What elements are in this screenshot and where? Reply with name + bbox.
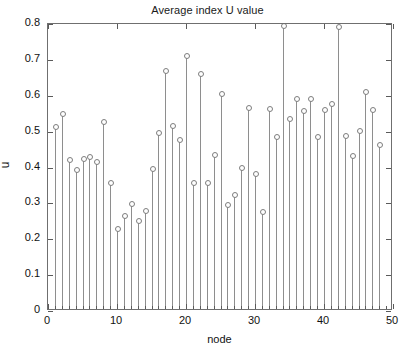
x-tick-minor xyxy=(76,306,77,309)
y-tick-right xyxy=(386,132,391,133)
x-tick-minor xyxy=(131,306,132,309)
x-tick-major xyxy=(324,304,325,309)
stem-marker xyxy=(232,192,238,198)
x-tick-minor xyxy=(103,306,104,309)
x-tick-minor xyxy=(158,306,159,309)
stem-line xyxy=(172,126,173,309)
stem-marker xyxy=(315,134,321,140)
x-tick-minor xyxy=(165,306,166,309)
stem-marker xyxy=(87,154,93,160)
x-tick-top xyxy=(117,24,118,29)
x-tick-minor xyxy=(62,306,63,309)
stem-line xyxy=(352,156,353,309)
stem-line xyxy=(158,133,159,309)
x-tick-minor xyxy=(96,306,97,309)
y-tick xyxy=(48,168,53,169)
stem-line xyxy=(55,127,56,309)
x-tick-label: 40 xyxy=(303,314,343,326)
x-tick-minor xyxy=(276,306,277,309)
stem-line xyxy=(117,229,118,309)
stem-marker xyxy=(108,180,114,186)
stem-marker xyxy=(156,130,162,136)
stem-line xyxy=(186,56,187,309)
stem-marker xyxy=(322,107,328,113)
stem-line xyxy=(214,155,215,309)
stem-marker xyxy=(212,152,218,158)
x-tick-top xyxy=(255,24,256,29)
stem-line xyxy=(310,99,311,309)
y-tick-label: 0.8 xyxy=(0,16,40,28)
x-tick-minor xyxy=(379,306,380,309)
stem-marker xyxy=(184,53,190,59)
chart-title: Average index U value xyxy=(0,4,415,16)
stem-marker xyxy=(370,107,376,113)
x-tick-top xyxy=(186,24,187,29)
stem-line xyxy=(255,174,256,309)
x-tick-label: 50 xyxy=(372,314,412,326)
x-tick-minor xyxy=(214,306,215,309)
x-tick-minor xyxy=(172,306,173,309)
stem-marker xyxy=(143,208,149,214)
stem-line xyxy=(89,157,90,309)
x-tick-minor xyxy=(234,306,235,309)
stem-marker xyxy=(60,111,66,117)
stem-marker xyxy=(253,171,259,177)
x-tick-minor xyxy=(152,306,153,309)
x-tick-minor xyxy=(200,306,201,309)
y-tick xyxy=(48,239,53,240)
stem-marker xyxy=(246,105,252,111)
stem-marker xyxy=(136,218,142,224)
stem-marker xyxy=(219,91,225,97)
stem-line xyxy=(96,162,97,309)
stem-line xyxy=(193,183,194,309)
stem-line xyxy=(248,108,249,309)
stem-marker xyxy=(343,133,349,139)
stem-marker xyxy=(225,202,231,208)
x-tick-minor xyxy=(365,306,366,309)
stem-marker xyxy=(377,142,383,148)
stem-marker xyxy=(101,119,107,125)
x-tick-minor xyxy=(248,306,249,309)
stem-marker xyxy=(94,159,100,165)
x-tick-minor xyxy=(331,306,332,309)
stem-line xyxy=(262,212,263,309)
y-tick xyxy=(48,203,53,204)
y-tick-label: 0.2 xyxy=(0,231,40,243)
stem-line xyxy=(365,92,366,309)
stem-line xyxy=(276,137,277,309)
stem-marker xyxy=(350,153,356,159)
y-tick xyxy=(48,96,53,97)
x-tick-minor xyxy=(221,306,222,309)
stem-marker xyxy=(281,24,287,29)
x-tick-major xyxy=(255,304,256,309)
stem-marker xyxy=(301,108,307,114)
x-tick-minor xyxy=(179,306,180,309)
x-tick-minor xyxy=(262,306,263,309)
stem-line xyxy=(269,109,270,309)
plot-canvas xyxy=(48,24,391,309)
x-tick-minor xyxy=(296,306,297,309)
y-tick xyxy=(48,311,53,312)
y-tick-right xyxy=(386,96,391,97)
x-tick-major xyxy=(393,304,394,309)
stem-line xyxy=(241,168,242,309)
stem-line xyxy=(179,140,180,309)
x-tick-minor xyxy=(345,306,346,309)
stem-line xyxy=(152,169,153,309)
stem-marker xyxy=(163,68,169,74)
y-tick-right xyxy=(386,275,391,276)
stem-line xyxy=(62,114,63,309)
y-tick-label: 0.7 xyxy=(0,52,40,64)
stem-line xyxy=(207,183,208,309)
stem-marker xyxy=(308,96,314,102)
stem-line xyxy=(165,71,166,309)
stem-marker xyxy=(329,101,335,107)
stem-line xyxy=(76,170,77,309)
x-tick-top xyxy=(48,24,49,29)
stem-line xyxy=(331,104,332,309)
y-tick-right xyxy=(386,203,391,204)
stem-line xyxy=(234,195,235,309)
stem-marker xyxy=(115,226,121,232)
stem-marker xyxy=(363,89,369,95)
x-tick-minor xyxy=(289,306,290,309)
